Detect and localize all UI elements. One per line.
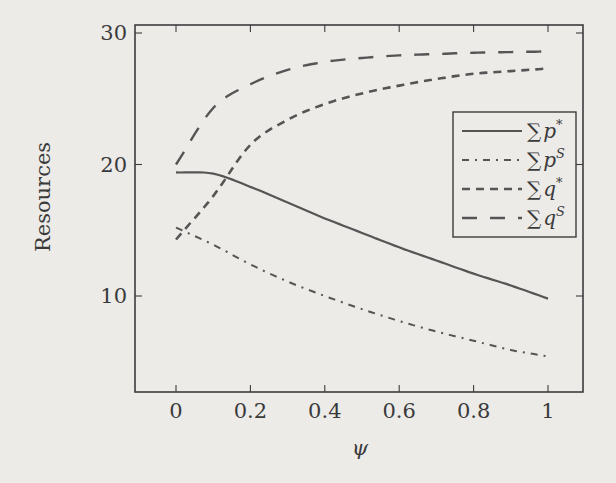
x-tick-label: 0.8 xyxy=(457,399,490,423)
y-tick-label: 30 xyxy=(100,21,127,45)
y-tick-label: 20 xyxy=(100,153,127,177)
x-tick-labels: 00.20.40.60.81 xyxy=(169,399,554,423)
x-tick-label: 0.6 xyxy=(382,399,415,423)
line-chart: 00.20.40.60.81 102030 ψ Resources ∑p*∑pS… xyxy=(0,0,616,483)
x-tick-label: 0.2 xyxy=(234,399,267,423)
x-tick-label: 1 xyxy=(541,399,554,423)
x-tick-label: 0 xyxy=(169,399,182,423)
legend: ∑p*∑pS∑q*∑qS xyxy=(453,112,576,237)
x-tick-label: 0.4 xyxy=(308,399,341,423)
y-axis-label: Resources xyxy=(31,142,55,252)
x-axis-label: ψ xyxy=(352,436,369,460)
y-tick-labels: 102030 xyxy=(100,21,127,308)
series-line-ps-s xyxy=(176,228,548,357)
y-tick-label: 10 xyxy=(100,284,127,308)
